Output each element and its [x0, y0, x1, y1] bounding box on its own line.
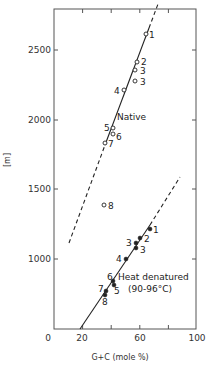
svg-text:5: 5 — [114, 286, 120, 296]
svg-text:3: 3 — [140, 245, 146, 255]
chart: 2500 2000 1500 1000 0 20 60 100 G+C (mol… — [0, 0, 209, 367]
y-tick-label-1500: 1500 — [28, 184, 51, 194]
native-point-3b — [133, 79, 137, 83]
denatured-point-7 — [104, 289, 108, 293]
svg-text:1: 1 — [149, 30, 155, 40]
denatured-annotation-line1: Heat denatured — [118, 272, 189, 282]
svg-text:8: 8 — [102, 297, 108, 307]
y-tick-label-1000: 1000 — [28, 254, 51, 264]
x-tick-label-20: 20 — [76, 333, 88, 343]
denatured-point-3a — [134, 241, 138, 245]
x-tick-label-60: 60 — [134, 333, 146, 343]
svg-text:1: 1 — [153, 225, 159, 235]
native-point-6 — [111, 132, 115, 136]
native-point-2 — [135, 60, 139, 64]
native-point-1 — [144, 32, 148, 36]
y-axis-title: [m] — [3, 153, 12, 167]
native-point-5 — [111, 126, 115, 130]
svg-text:3: 3 — [140, 77, 146, 87]
native-point-8 — [102, 203, 106, 207]
svg-text:7: 7 — [98, 284, 104, 294]
svg-text:2: 2 — [144, 234, 150, 244]
svg-text:3: 3 — [126, 238, 132, 248]
y-ticks — [54, 50, 196, 259]
native-point-7 — [103, 141, 107, 145]
denatured-annotation-line2: (90-96°C) — [128, 284, 172, 294]
native-point-4 — [122, 88, 126, 92]
denatured-point-1 — [148, 227, 152, 231]
y-tick-label-2500: 2500 — [28, 45, 51, 55]
native-point-3a — [133, 68, 137, 72]
x-axis-title: G+C (mole %) — [91, 353, 148, 362]
native-annotation: Native — [117, 112, 147, 122]
svg-text:6: 6 — [116, 132, 122, 142]
y-tick-label-2000: 2000 — [28, 115, 51, 125]
x-tick-label-0: 0 — [45, 333, 51, 343]
svg-text:4: 4 — [114, 86, 120, 96]
denatured-point-4 — [124, 257, 128, 261]
svg-text:8: 8 — [108, 201, 114, 211]
svg-text:7: 7 — [108, 139, 114, 149]
denatured-point-3b — [134, 246, 138, 250]
x-tick-label-100: 100 — [188, 333, 205, 343]
svg-text:4: 4 — [116, 254, 122, 264]
denatured-fit-line — [80, 177, 180, 329]
svg-text:6: 6 — [107, 272, 113, 282]
svg-text:5: 5 — [104, 123, 110, 133]
svg-text:3: 3 — [140, 66, 146, 76]
denatured-point-2 — [138, 236, 142, 240]
